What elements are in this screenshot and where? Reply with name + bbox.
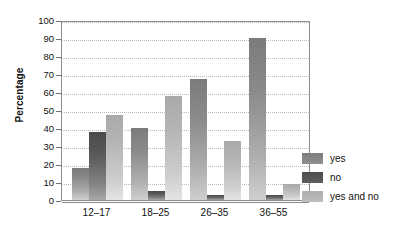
y-axis-tick-label: 70 xyxy=(28,70,54,80)
bar-no-26–35 xyxy=(207,195,224,200)
bar-yes-and-no-26–35 xyxy=(224,141,241,200)
y-axis-tick-label: 80 xyxy=(28,52,54,62)
legend-label-yes-and-no: yes and no xyxy=(330,191,379,202)
bar-group xyxy=(131,22,182,200)
y-axis-tick-label: 40 xyxy=(28,124,54,134)
bar-yes-and-no-12–17 xyxy=(106,115,123,200)
gridline xyxy=(62,202,309,203)
y-axis-tick-label: 10 xyxy=(28,178,54,188)
y-axis-tick-mark xyxy=(56,201,61,202)
legend-item-no: no xyxy=(302,169,379,186)
bar-yes-36–55 xyxy=(249,38,266,200)
legend-item-yes-and-no: yes and no xyxy=(302,188,379,205)
legend-label-no: no xyxy=(330,172,341,183)
legend-item-yes: yes xyxy=(302,150,379,167)
legend-label-yes: yes xyxy=(330,153,346,164)
plot-inner xyxy=(62,22,309,200)
y-axis-title: Percentage xyxy=(10,0,30,190)
y-axis-tick-label: 20 xyxy=(28,160,54,170)
legend-swatch-yes-and-no-icon xyxy=(302,191,323,202)
bar-yes-12–17 xyxy=(72,168,89,200)
bar-yes-and-no-36–55 xyxy=(283,184,300,200)
bar-yes-and-no-18–25 xyxy=(165,96,182,200)
bar-chart: Percentage 1009080706050403020100 12–171… xyxy=(0,0,397,233)
y-axis-tick-label: 100 xyxy=(28,16,54,26)
legend-swatch-yes-icon xyxy=(302,153,323,164)
y-axis-tick-label: 90 xyxy=(28,34,54,44)
bar-no-18–25 xyxy=(148,191,165,200)
bar-no-12–17 xyxy=(89,132,106,200)
bar-group xyxy=(72,22,123,200)
y-axis-tick-label: 60 xyxy=(28,88,54,98)
bar-no-36–55 xyxy=(266,195,283,200)
y-axis-tick-label: 0 xyxy=(28,196,54,206)
bar-group xyxy=(249,22,300,200)
chart-legend: yes no yes and no xyxy=(302,150,379,207)
y-axis-tick-label: 30 xyxy=(28,142,54,152)
x-axis-tick-label: 36–55 xyxy=(239,207,309,218)
y-axis-tick-label: 50 xyxy=(28,106,54,116)
bar-yes-26–35 xyxy=(190,79,207,200)
bar-yes-18–25 xyxy=(131,128,148,200)
bar-group xyxy=(190,22,241,200)
plot-area xyxy=(61,21,310,201)
legend-swatch-no-icon xyxy=(302,172,323,183)
